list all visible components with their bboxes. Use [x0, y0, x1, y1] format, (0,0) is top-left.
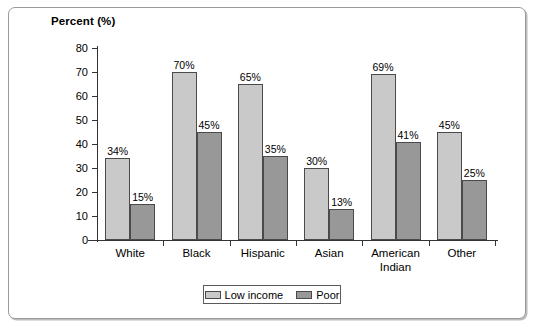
legend-entry: Low income [205, 289, 284, 301]
x-axis-category-label: Other [429, 246, 495, 260]
y-axis-tick-label: 0 [28, 234, 88, 246]
chart-figure: Percent (%) 01020304050607080 34%15%70%4… [0, 0, 537, 330]
y-axis-tick-label: 30 [28, 162, 88, 174]
bar [329, 209, 354, 240]
bar-value-label: 65% [232, 71, 269, 83]
x-axis-category-label: Hispanic [230, 246, 296, 260]
legend-label: Poor [316, 289, 339, 301]
bar-value-label: 35% [257, 143, 294, 155]
chart-legend: Low incomePoor [203, 285, 341, 304]
bar [197, 132, 222, 240]
bar-value-label: 41% [390, 129, 427, 141]
bar [172, 72, 197, 240]
legend-entry: Poor [296, 289, 339, 301]
bar-value-label: 15% [124, 191, 161, 203]
bar-value-label: 25% [456, 167, 493, 179]
y-axis-title: Percent (%) [51, 15, 115, 27]
y-axis-tick-label: 40 [28, 138, 88, 150]
bar-value-label: 30% [298, 155, 335, 167]
legend-label: Low income [225, 289, 284, 301]
bar [130, 204, 155, 240]
x-axis-line [88, 240, 498, 241]
bar [396, 142, 421, 240]
bar-value-label: 70% [166, 59, 203, 71]
y-axis-tick-label: 70 [28, 66, 88, 78]
x-axis-category-label: American Indian [362, 246, 428, 274]
x-axis-tick-mark [495, 241, 496, 246]
bar-value-label: 45% [191, 119, 228, 131]
x-axis-category-label: White [97, 246, 163, 260]
bar [462, 180, 487, 240]
y-axis-tick-label: 10 [28, 210, 88, 222]
x-axis-category-label: Black [163, 246, 229, 260]
bar-value-label: 45% [431, 119, 468, 131]
bar [371, 74, 396, 240]
x-axis-category-label: Asian [296, 246, 362, 260]
y-axis-tick-label: 80 [28, 42, 88, 54]
legend-swatch-icon [205, 291, 221, 299]
legend-swatch-icon [296, 291, 312, 299]
bar-value-label: 69% [365, 61, 402, 73]
bar [263, 156, 288, 240]
bar-value-label: 13% [323, 196, 360, 208]
bar [238, 84, 263, 240]
y-axis-tick-label: 20 [28, 186, 88, 198]
plot-area [97, 48, 495, 240]
bar-value-label: 34% [99, 145, 136, 157]
y-axis-tick-label: 50 [28, 114, 88, 126]
y-axis-tick-label: 60 [28, 90, 88, 102]
bar [437, 132, 462, 240]
